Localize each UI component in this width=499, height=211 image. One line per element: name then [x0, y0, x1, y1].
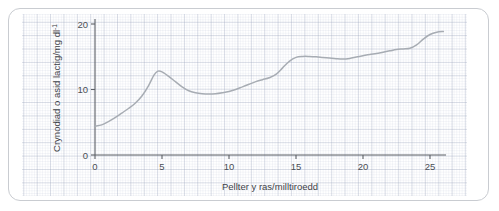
chart-figure: 0 10 20 0 5 10 15 20 25 Pellter y ras/mi…	[0, 0, 499, 211]
x-tick-label-20: 20	[358, 161, 369, 172]
x-tick-label-15: 15	[291, 161, 302, 172]
chart-plot-area: 0 10 20 0 5 10 15 20 25 Pellter y ras/mi…	[0, 0, 499, 211]
y-axis-ticks	[91, 24, 95, 155]
x-axis-ticks	[95, 155, 430, 159]
x-tick-label-25: 25	[425, 161, 436, 172]
x-tick-label-10: 10	[224, 161, 235, 172]
y-tick-label-20: 20	[77, 19, 88, 30]
y-tick-label-10: 10	[77, 84, 88, 95]
y-axis-title-text: Crynodiad o asid lactig/mg dl	[51, 30, 62, 152]
x-axis-title: Pellter y ras/milltiroedd	[222, 181, 318, 192]
data-series-line	[95, 32, 443, 127]
x-tick-label-5: 5	[159, 161, 164, 172]
y-tick-label-0: 0	[83, 150, 88, 161]
x-tick-label-0: 0	[92, 161, 97, 172]
y-axis-title-superscript: -1	[51, 24, 58, 30]
svg-text:Crynodiad o asid lactig/mg dl-: Crynodiad o asid lactig/mg dl-1	[51, 24, 62, 152]
y-axis-title: Crynodiad o asid lactig/mg dl-1	[51, 24, 62, 152]
